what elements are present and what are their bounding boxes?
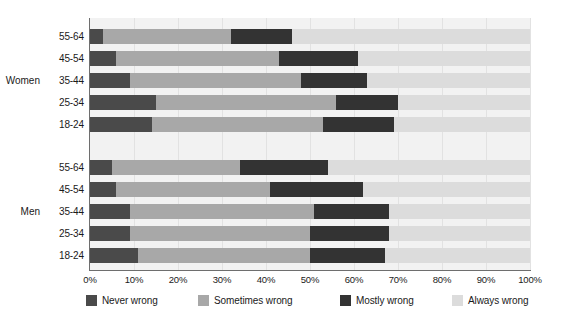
bar-segment-always-wrong <box>389 226 530 241</box>
legend-item-mostly-wrong[interactable]: Mostly wrong <box>340 293 414 307</box>
bar-row <box>90 204 530 219</box>
bar-segment-mostly-wrong <box>301 73 367 88</box>
legend-label: Sometimes wrong <box>214 295 293 306</box>
bar-segment-never-wrong <box>90 182 116 197</box>
legend-item-sometimes-wrong[interactable]: Sometimes wrong <box>198 293 293 307</box>
bar-segment-sometimes-wrong <box>116 51 279 66</box>
bar-row <box>90 73 530 88</box>
bar-segment-mostly-wrong <box>336 95 398 110</box>
bar-segment-always-wrong <box>389 204 530 219</box>
y-axis-label-women-45-54: 45-54 <box>38 51 84 66</box>
bar-segment-always-wrong <box>367 73 530 88</box>
bar-segment-always-wrong <box>398 95 530 110</box>
bar-segment-always-wrong <box>328 160 530 175</box>
bar-segment-never-wrong <box>90 29 103 44</box>
bar-segment-sometimes-wrong <box>116 182 270 197</box>
legend-label: Always wrong <box>468 295 529 306</box>
legend-item-always-wrong[interactable]: Always wrong <box>452 293 529 307</box>
gridline-100% <box>530 18 531 271</box>
bar-segment-never-wrong <box>90 73 130 88</box>
group-label-men: Men <box>4 204 40 219</box>
x-tick-90%: 90% <box>466 274 506 285</box>
bar-segment-always-wrong <box>292 29 530 44</box>
bar-segment-always-wrong <box>358 51 530 66</box>
bar-segment-always-wrong <box>363 182 530 197</box>
bar-segment-mostly-wrong <box>270 182 362 197</box>
x-tick-80%: 80% <box>422 274 462 285</box>
bar-segment-never-wrong <box>90 95 156 110</box>
bar-row <box>90 95 530 110</box>
bar-row <box>90 29 530 44</box>
bar-segment-sometimes-wrong <box>130 226 310 241</box>
bar-segment-sometimes-wrong <box>152 117 324 132</box>
bar-segment-sometimes-wrong <box>130 73 302 88</box>
x-tick-30%: 30% <box>202 274 242 285</box>
legend-swatch-icon <box>198 295 209 306</box>
x-tick-60%: 60% <box>334 274 374 285</box>
bar-segment-always-wrong <box>385 248 530 263</box>
bar-segment-sometimes-wrong <box>156 95 336 110</box>
legend-label: Never wrong <box>102 295 158 306</box>
x-tick-70%: 70% <box>378 274 418 285</box>
legend-swatch-icon <box>86 295 97 306</box>
bar-segment-never-wrong <box>90 226 130 241</box>
bar-segment-mostly-wrong <box>310 226 389 241</box>
bar-segment-mostly-wrong <box>310 248 385 263</box>
bar-segment-sometimes-wrong <box>103 29 231 44</box>
bar-segment-never-wrong <box>90 204 130 219</box>
group-label-women: Women <box>4 73 40 88</box>
y-axis-label-men-18-24: 18-24 <box>38 248 84 263</box>
y-axis-label-men-35-44: 35-44 <box>38 204 84 219</box>
x-tick-50%: 50% <box>290 274 330 285</box>
bar-segment-never-wrong <box>90 248 138 263</box>
bar-segment-never-wrong <box>90 117 152 132</box>
y-axis-label-women-18-24: 18-24 <box>38 117 84 132</box>
x-axis-line <box>89 270 531 271</box>
bar-segment-always-wrong <box>394 117 530 132</box>
legend-label: Mostly wrong <box>356 295 414 306</box>
bar-row <box>90 226 530 241</box>
bar-row <box>90 182 530 197</box>
bar-segment-never-wrong <box>90 51 116 66</box>
x-tick-0%: 0% <box>70 274 110 285</box>
legend-swatch-icon <box>340 295 351 306</box>
y-axis-label-women-25-34: 25-34 <box>38 95 84 110</box>
y-axis-label-men-45-54: 45-54 <box>38 182 84 197</box>
bar-segment-mostly-wrong <box>231 29 293 44</box>
bar-segment-sometimes-wrong <box>138 248 310 263</box>
bar-row <box>90 117 530 132</box>
bar-segment-sometimes-wrong <box>130 204 315 219</box>
stacked-bar-chart: 55-6445-5435-4425-3418-2455-6445-5435-44… <box>0 0 569 320</box>
bar-segment-mostly-wrong <box>314 204 389 219</box>
bar-row <box>90 51 530 66</box>
bar-row <box>90 248 530 263</box>
y-axis-label-men-55-64: 55-64 <box>38 160 84 175</box>
x-tick-100%: 100% <box>510 274 550 285</box>
bar-segment-mostly-wrong <box>323 117 393 132</box>
x-tick-10%: 10% <box>114 274 154 285</box>
x-tick-20%: 20% <box>158 274 198 285</box>
x-tick-40%: 40% <box>246 274 286 285</box>
legend-swatch-icon <box>452 295 463 306</box>
y-axis-label-women-55-64: 55-64 <box>38 29 84 44</box>
bar-row <box>90 160 530 175</box>
bar-segment-mostly-wrong <box>240 160 328 175</box>
legend-item-never-wrong[interactable]: Never wrong <box>86 293 158 307</box>
bar-segment-sometimes-wrong <box>112 160 240 175</box>
y-axis-label-women-35-44: 35-44 <box>38 73 84 88</box>
bar-segment-mostly-wrong <box>279 51 358 66</box>
y-axis-label-men-25-34: 25-34 <box>38 226 84 241</box>
bar-segment-never-wrong <box>90 160 112 175</box>
